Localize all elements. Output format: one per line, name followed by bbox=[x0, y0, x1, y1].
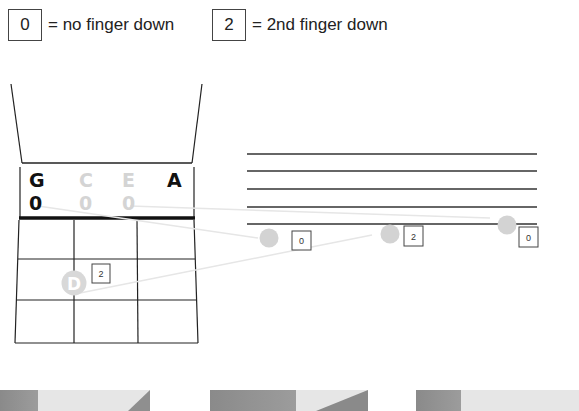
photo-1 bbox=[0, 390, 150, 411]
staff-note-3: 0 bbox=[498, 216, 539, 248]
neck-outline bbox=[11, 84, 202, 163]
string-label-c: C bbox=[79, 169, 93, 191]
finger-box-2-fingerboard: 2 bbox=[92, 264, 110, 283]
string-label-a: A bbox=[167, 169, 182, 191]
svg-text:2: 2 bbox=[411, 232, 416, 242]
svg-text:0: 0 bbox=[526, 233, 531, 243]
svg-text:2: 2 bbox=[98, 269, 103, 279]
finger-c: 0 bbox=[79, 192, 92, 214]
svg-text:0: 0 bbox=[299, 236, 304, 246]
string-label-g: G bbox=[29, 169, 45, 191]
finger-e: 0 bbox=[122, 192, 135, 214]
note-dot-label: D bbox=[67, 274, 81, 294]
staff-note-2: 2 bbox=[381, 225, 424, 247]
music-staff bbox=[247, 154, 537, 224]
photo-2 bbox=[210, 390, 368, 411]
diagram-canvas: G C E A 0 0 0 D 2 0 2 0 bbox=[0, 0, 579, 411]
staff-note-1: 0 bbox=[260, 229, 312, 251]
string-label-e: E bbox=[122, 169, 135, 191]
note-dot-d: D bbox=[62, 271, 87, 296]
photo-3 bbox=[416, 390, 579, 411]
finger-g: 0 bbox=[29, 192, 42, 214]
